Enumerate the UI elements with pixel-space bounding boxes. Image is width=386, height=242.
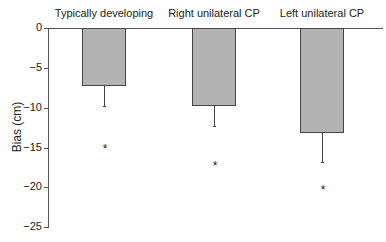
chart: Bias (cm) 0−5−10−15−20−25 Typically deve…	[0, 0, 386, 242]
y-tick-labels: 0−5−10−15−20−25	[0, 0, 42, 242]
bar	[82, 28, 126, 86]
error-bar	[214, 105, 215, 127]
y-axis-line	[48, 28, 49, 228]
error-bar-cap	[103, 106, 106, 107]
significance-marker: *	[321, 184, 326, 196]
y-tick-label: 0	[36, 22, 42, 33]
bar	[300, 28, 344, 133]
y-tick-label: −25	[23, 221, 42, 232]
category-label: Right unilateral CP	[168, 7, 260, 19]
error-bar-cap	[213, 126, 216, 127]
y-tick	[44, 68, 48, 69]
category-label: Typically developing	[55, 7, 153, 19]
significance-marker: *	[213, 160, 218, 172]
error-bar	[322, 132, 323, 161]
y-tick	[44, 108, 48, 109]
bar	[192, 28, 236, 106]
y-tick-label: −20	[23, 181, 42, 192]
category-label: Left unilateral CP	[280, 7, 364, 19]
y-tick-label: −5	[29, 62, 42, 73]
y-tick-label: −10	[23, 102, 42, 113]
y-tick	[44, 227, 48, 228]
error-bar	[104, 85, 105, 106]
error-bar-cap	[321, 162, 324, 163]
y-tick-label: −15	[23, 142, 42, 153]
y-tick	[44, 148, 48, 149]
y-tick	[44, 187, 48, 188]
significance-marker: *	[103, 143, 108, 155]
